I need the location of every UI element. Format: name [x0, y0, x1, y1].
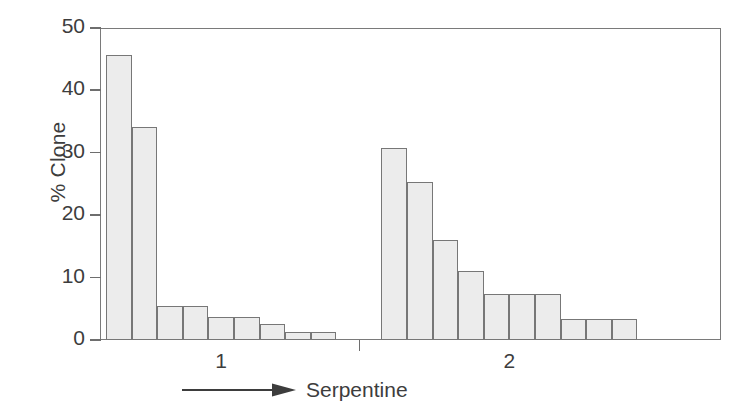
x-axis-caption-label: Serpentine [306, 378, 408, 402]
bar [458, 271, 484, 340]
bar [106, 55, 132, 340]
x-tick-label: 1 [191, 349, 251, 373]
bar [157, 306, 183, 340]
bar [612, 319, 638, 340]
bar [535, 294, 561, 340]
bar [509, 294, 535, 340]
bar [407, 182, 433, 340]
x-axis-separator-tick [359, 340, 361, 351]
bar [208, 317, 234, 340]
bar [183, 306, 209, 340]
bar-series [0, 0, 749, 420]
bar [586, 319, 612, 340]
bar [433, 240, 459, 340]
x-tick-label: 2 [479, 349, 539, 373]
bar [234, 317, 260, 340]
chart-figure: % Clone 01020304050 12 Serpentine [0, 0, 749, 420]
bar [132, 127, 158, 340]
bar [381, 148, 407, 340]
x-axis-caption: Serpentine [180, 378, 408, 402]
bar [311, 332, 337, 340]
right-arrow-icon [180, 382, 298, 398]
bar [260, 324, 286, 340]
bar [285, 332, 311, 340]
bar [484, 294, 510, 340]
bar [561, 319, 587, 340]
